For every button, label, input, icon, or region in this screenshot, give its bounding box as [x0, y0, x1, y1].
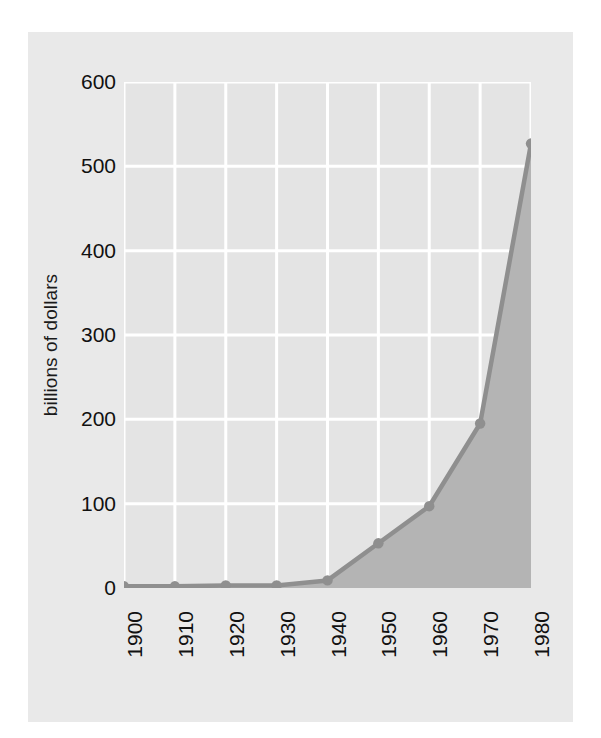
plot-area — [124, 82, 531, 588]
x-tick-label: 1980 — [531, 611, 553, 701]
x-tick-label: 1950 — [378, 611, 400, 701]
x-tick-label: 1960 — [429, 611, 451, 701]
x-tick-label: 1920 — [226, 611, 248, 701]
figure-root: 0100200300400500600 19001910192019301940… — [0, 0, 601, 738]
x-tick-label: 1970 — [480, 611, 502, 701]
x-tick-label: 1940 — [328, 611, 350, 701]
x-tick-label: 1910 — [175, 611, 197, 701]
area-chart — [124, 82, 531, 588]
data-point — [475, 418, 485, 428]
y-axis-label: billions of dollars — [36, 235, 66, 455]
data-point — [424, 501, 434, 511]
x-tick-label: 1930 — [277, 611, 299, 701]
data-point — [322, 575, 332, 585]
data-point — [373, 538, 383, 548]
y-axis-label-text: billions of dollars — [40, 274, 62, 416]
x-tick-label: 1900 — [124, 611, 146, 701]
